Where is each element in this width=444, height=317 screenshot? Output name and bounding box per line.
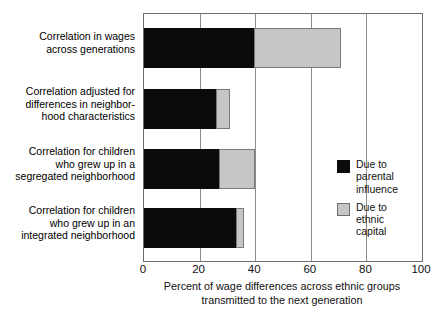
bar-group xyxy=(144,28,422,68)
bar-segment-ethnic xyxy=(219,149,255,189)
stacked-bar-chart: Correlation in wages across generations … xyxy=(0,0,444,317)
x-tick-label-40: 40 xyxy=(248,262,261,276)
bar-segment-ethnic xyxy=(216,89,230,129)
legend-label-parental: Due to parental influence xyxy=(356,158,419,195)
bar-segment-parental xyxy=(144,149,219,189)
x-tick-label-0: 0 xyxy=(140,262,146,276)
legend: Due to parental influence Due to ethnic … xyxy=(337,158,419,244)
bar-segment-ethnic xyxy=(254,28,342,68)
bar-segment-ethnic xyxy=(236,208,244,248)
legend-entry-ethnic: Due to ethnic capital xyxy=(337,201,419,238)
x-tick-label-100: 100 xyxy=(411,262,430,276)
x-tick-label-60: 60 xyxy=(303,262,316,276)
category-label-segregated-neighborhood: Correlation for children who grew up in … xyxy=(0,145,139,183)
category-label-wages-across-generations: Correlation in wages across generations xyxy=(0,30,139,55)
bar-group xyxy=(144,89,422,129)
black-swatch-icon xyxy=(337,160,350,173)
category-axis-labels: Correlation in wages across generations … xyxy=(0,0,139,262)
legend-label-ethnic: Due to ethnic capital xyxy=(356,201,419,238)
legend-entry-parental: Due to parental influence xyxy=(337,158,419,195)
category-label-integrated-neighborhood: Correlation for children who grew up in … xyxy=(0,204,139,242)
x-axis-title: Percent of wage differences across ethni… xyxy=(143,280,421,307)
bar-segment-parental xyxy=(144,89,216,129)
x-axis-tick-labels: 020406080100 xyxy=(143,262,421,278)
bar-segment-parental xyxy=(144,28,254,68)
x-tick-label-80: 80 xyxy=(359,262,372,276)
bar-segment-parental xyxy=(144,208,236,248)
category-label-adjusted-neighborhood-characteristics: Correlation adjusted for differences in … xyxy=(0,85,139,123)
gray-swatch-icon xyxy=(337,203,350,216)
x-tick-label-20: 20 xyxy=(192,262,205,276)
